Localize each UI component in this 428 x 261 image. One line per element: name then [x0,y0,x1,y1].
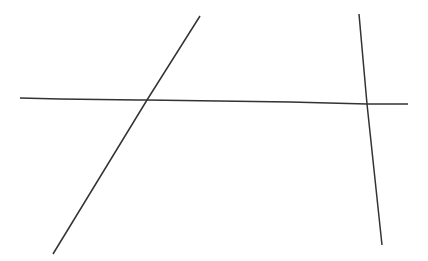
diagram-background [0,0,428,261]
line-diagram [0,0,428,261]
